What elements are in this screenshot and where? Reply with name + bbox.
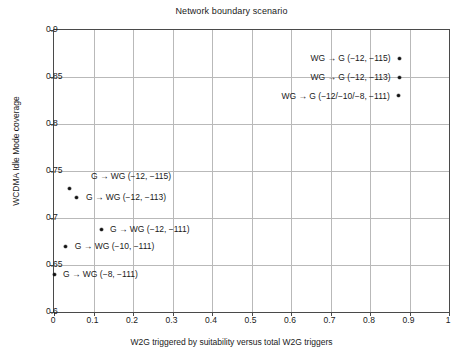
x-tick-label: 0.7 [324, 315, 336, 325]
y-tick-label: 0.65 [46, 259, 63, 269]
x-tick-label: 0 [51, 315, 56, 325]
y-tick-label: 0.7 [46, 212, 58, 222]
data-point-marker [396, 93, 401, 98]
point-label: WG → G (−12, −113) [310, 72, 390, 82]
x-tick-label: 0.4 [205, 315, 217, 325]
point-label: G → WG (−8, −111) [63, 269, 138, 279]
x-tick-label: 0.2 [126, 315, 138, 325]
x-tick-label: 0.1 [87, 315, 99, 325]
y-axis-label: WCDMA Idle Mode coverage [11, 51, 21, 251]
x-tick-label: 0.8 [363, 315, 375, 325]
data-point-marker [397, 75, 402, 80]
plot-area: WG → G (−12, −115)WG → G (−12, −113)WG →… [53, 29, 450, 313]
x-tick-label: 0.6 [284, 315, 296, 325]
data-point-marker [99, 227, 104, 232]
y-tick-label: 0.85 [46, 71, 63, 81]
x-tick-label: 0.9 [403, 315, 415, 325]
x-axis-label: W2G triggered by suitability versus tota… [0, 337, 463, 347]
point-label: WG → G (−12, −115) [310, 53, 390, 63]
data-point-marker [67, 186, 72, 191]
x-tick-label: 0.3 [166, 315, 178, 325]
data-point-marker [63, 244, 68, 249]
point-label: G → WG (−12, −113) [86, 192, 166, 202]
x-tick-label: 1 [446, 315, 451, 325]
gridline-horizontal [54, 218, 449, 219]
gridline-horizontal [54, 124, 449, 125]
data-point-marker [52, 272, 57, 277]
scatter-chart-figure: Network boundary scenario WG → G (−12, −… [0, 0, 463, 361]
point-label: WG → G (−12/−10/−8, −111) [281, 91, 389, 101]
point-label: G → WG (−10, −111) [75, 241, 155, 251]
y-tick-label: 0.9 [46, 24, 58, 34]
data-point-marker [397, 56, 402, 61]
data-point-marker [74, 195, 79, 200]
gridline-horizontal [54, 265, 449, 266]
x-tick-label: 0.5 [245, 315, 257, 325]
point-label: G → WG (−12, −115) [91, 171, 171, 181]
chart-title: Network boundary scenario [0, 6, 463, 16]
y-tick-label: 0.8 [46, 118, 58, 128]
y-tick-label: 0.6 [46, 306, 58, 316]
point-label: G → WG (−12, −111) [110, 224, 190, 234]
y-tick-label: 0.75 [46, 165, 63, 175]
